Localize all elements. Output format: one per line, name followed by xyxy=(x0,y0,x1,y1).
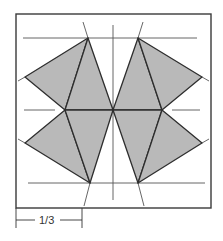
quilt-block-diagram xyxy=(0,0,223,241)
ext-right-upper xyxy=(202,77,209,81)
ext-top-left xyxy=(83,22,88,38)
ext-right-lower xyxy=(202,139,209,143)
ext-top-right xyxy=(138,22,143,38)
ext-bottom-right xyxy=(138,183,144,206)
ext-left-lower xyxy=(18,139,25,143)
guide-lines xyxy=(18,22,209,206)
shaded-shapes xyxy=(25,38,202,183)
ext-bottom-left xyxy=(84,183,90,206)
ext-left-upper xyxy=(18,77,25,81)
dimension-label: 1/3 xyxy=(37,214,56,226)
